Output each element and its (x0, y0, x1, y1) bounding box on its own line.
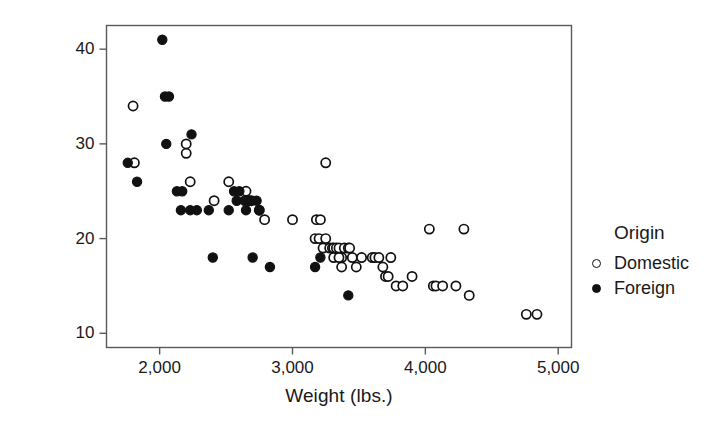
data-point-domestic (316, 215, 325, 224)
data-point-domestic (348, 253, 357, 262)
data-point-domestic (465, 291, 474, 300)
filled-circle-icon (592, 284, 614, 293)
data-point-foreign (265, 262, 274, 271)
open-circle-icon (592, 259, 614, 268)
data-point-domestic (186, 177, 195, 186)
data-point-domestic (321, 158, 330, 167)
data-point-foreign (235, 187, 244, 196)
data-point-domestic (532, 310, 541, 319)
data-point-domestic (425, 225, 434, 234)
data-point-foreign (255, 206, 264, 215)
data-point-foreign (208, 253, 217, 262)
data-point-foreign (252, 196, 261, 205)
x-tick-label: 2,000 (138, 358, 181, 378)
y-tick-label: 30 (76, 134, 95, 154)
data-point-foreign (162, 139, 171, 148)
legend-label-domestic: Domestic (614, 253, 689, 274)
data-point-domestic (345, 243, 354, 252)
legend: Origin Domestic Foreign (592, 222, 716, 301)
scatter-plot-figure: Mileage (mpg) Weight (lbs.) 2,0003,0004,… (0, 0, 719, 429)
y-tick-label: 40 (76, 39, 95, 59)
data-point-domestic (407, 272, 416, 281)
data-point-domestic (288, 215, 297, 224)
data-point-domestic (357, 253, 366, 262)
data-point-foreign (344, 291, 353, 300)
data-point-domestic (384, 272, 393, 281)
data-point-foreign (178, 187, 187, 196)
y-tick-label: 20 (76, 229, 95, 249)
data-point-domestic (451, 281, 460, 290)
x-tick-label: 5,000 (537, 358, 580, 378)
data-point-domestic (334, 253, 343, 262)
x-tick-label: 3,000 (271, 358, 314, 378)
data-point-domestic (398, 281, 407, 290)
data-point-foreign (224, 206, 233, 215)
data-point-domestic (321, 234, 330, 243)
data-point-foreign (123, 158, 132, 167)
data-point-domestic (224, 177, 233, 186)
data-point-foreign (241, 206, 250, 215)
plot-canvas (0, 0, 719, 429)
data-point-foreign (158, 35, 167, 44)
data-point-domestic (386, 253, 395, 262)
data-point-domestic (260, 215, 269, 224)
data-point-foreign (316, 253, 325, 262)
x-axis-title-text: Weight (lbs.) (285, 385, 393, 407)
data-point-foreign (204, 206, 213, 215)
data-point-foreign (310, 262, 319, 271)
data-point-foreign (248, 253, 257, 262)
data-point-domestic (352, 262, 361, 271)
data-point-domestic (522, 310, 531, 319)
data-point-domestic (378, 262, 387, 271)
legend-title: Origin (614, 222, 716, 244)
data-point-foreign (132, 177, 141, 186)
legend-label-foreign: Foreign (614, 278, 675, 299)
legend-item-foreign[interactable]: Foreign (592, 276, 716, 301)
data-point-domestic (374, 253, 383, 262)
data-point-domestic (459, 225, 468, 234)
data-point-domestic (128, 101, 137, 110)
x-tick-label: 4,000 (404, 358, 447, 378)
data-point-domestic (438, 281, 447, 290)
data-point-foreign (176, 206, 185, 215)
data-point-domestic (337, 262, 346, 271)
legend-item-domestic[interactable]: Domestic (592, 251, 716, 276)
data-point-foreign (187, 130, 196, 139)
data-point-domestic (182, 149, 191, 158)
data-point-domestic (182, 139, 191, 148)
y-tick-label: 10 (76, 323, 95, 343)
data-point-domestic (210, 196, 219, 205)
data-point-foreign (192, 206, 201, 215)
data-point-foreign (164, 92, 173, 101)
